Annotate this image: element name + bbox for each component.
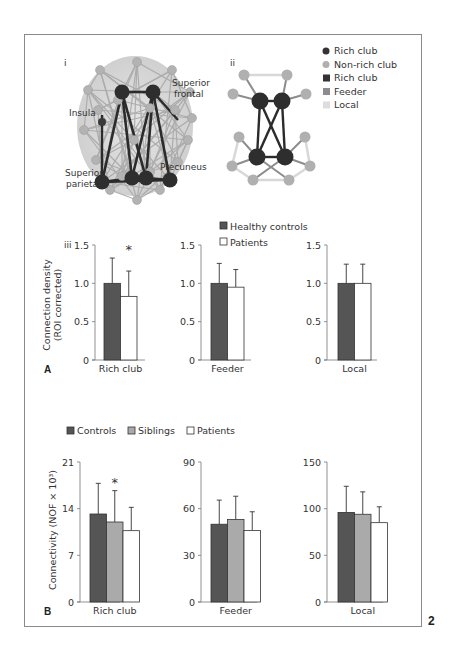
- y-tick-label: 60: [183, 503, 195, 514]
- y-tick-label: 1.5: [306, 240, 321, 251]
- y-tick-label: 0.5: [74, 316, 89, 327]
- region-label-precuneus: Precuneus: [160, 162, 207, 172]
- x-category-label: Rich club: [93, 605, 136, 616]
- figure-number: 2: [428, 614, 435, 628]
- region-label-superior-frontal-2: frontal: [174, 89, 203, 99]
- bar: [355, 514, 372, 602]
- y-tick-label: 1.0: [180, 278, 195, 289]
- rich-club-schematic: ii: [227, 58, 316, 186]
- svg-text:Connectivity (NOF × 10³): Connectivity (NOF × 10³): [47, 470, 58, 590]
- region-label-insula: Insula: [69, 108, 96, 118]
- y-tick-label: 0: [189, 597, 195, 608]
- x-category-label: Rich club: [99, 363, 142, 374]
- chart-rich-club: 071421*Rich club: [62, 457, 140, 617]
- legend-item: Non-rich club: [334, 59, 397, 70]
- y-tick-label: 0: [189, 355, 195, 366]
- panel-label-B: B: [44, 606, 51, 617]
- legend-item: Patients: [197, 425, 235, 436]
- subpanel-iii-label: iii: [64, 240, 72, 250]
- bar: [355, 283, 372, 360]
- bar: [121, 296, 138, 360]
- bar: [211, 283, 228, 360]
- y-tick-label: 21: [62, 457, 74, 468]
- bar: [244, 530, 261, 602]
- region-label-superior-parietal-1: Superior: [65, 168, 103, 178]
- chart-local: 050100150Local: [303, 457, 388, 617]
- x-category-label: Feeder: [211, 363, 244, 374]
- legend-item: Healthy controls: [230, 221, 308, 232]
- y-tick-label: 150: [303, 457, 321, 468]
- chart-local: 00.51.01.5Local: [306, 240, 377, 375]
- bar: [338, 283, 355, 360]
- legend-panel-A: Healthy controlsPatients: [220, 221, 308, 248]
- legend-item: Siblings: [138, 425, 175, 436]
- legend-item: Feeder: [334, 86, 367, 97]
- y-tick-label: 0: [68, 597, 74, 608]
- y-tick-label: 90: [183, 457, 195, 468]
- y-tick-label: 0.5: [306, 316, 321, 327]
- legend-panel-B: ControlsSiblingsPatients: [67, 425, 235, 436]
- subpanel-i-label: i: [64, 58, 67, 68]
- subpanel-ii-label: ii: [230, 58, 235, 68]
- svg-text:(ROI corrected): (ROI corrected): [52, 269, 63, 341]
- chart-feeder: 00.51.01.5Feeder: [180, 240, 251, 375]
- panel-label-A: A: [44, 364, 51, 375]
- region-label-superior-frontal-1: Superior: [172, 78, 210, 88]
- network-legend: Rich clubNon-rich clubRich clubFeederLoc…: [323, 45, 398, 110]
- bar: [228, 520, 245, 602]
- bar-charts-panel-B: 071421*Rich club0306090Feeder050100150Lo…: [62, 457, 388, 617]
- legend-item: Patients: [230, 237, 268, 248]
- y-tick-label: 100: [303, 503, 321, 514]
- y-tick-label: 7: [68, 550, 74, 561]
- bar: [211, 524, 228, 602]
- y-tick-label: 1.0: [306, 278, 321, 289]
- y-tick-label: 1.5: [74, 240, 89, 251]
- bar-charts-panel-A: 00.51.01.5*Rich club00.51.01.5Feeder00.5…: [74, 240, 377, 375]
- significance-marker: *: [126, 242, 133, 257]
- y-tick-label: 0.5: [180, 316, 195, 327]
- legend-item: Rich club: [334, 45, 377, 56]
- y-tick-label: 0: [315, 355, 321, 366]
- bar: [104, 283, 121, 360]
- y-axis-title-B: Connectivity (NOF × 10³): [47, 470, 58, 590]
- y-tick-label: 30: [183, 550, 195, 561]
- x-category-label: Local: [342, 363, 367, 374]
- svg-text:Connection density: Connection density: [41, 259, 52, 351]
- bar: [123, 531, 140, 602]
- region-label-superior-parietal-2: parietal: [66, 179, 101, 189]
- y-tick-label: 1.0: [74, 278, 89, 289]
- y-tick-label: 1.5: [180, 240, 195, 251]
- bar: [338, 512, 355, 602]
- y-tick-label: 0: [315, 597, 321, 608]
- bar: [228, 287, 245, 360]
- y-tick-label: 0: [83, 355, 89, 366]
- brain-network-diagram: i Superior frontal Insula Superior parie…: [64, 56, 210, 205]
- bar: [90, 514, 107, 602]
- y-axis-title-A: Connection density (ROI corrected): [41, 259, 63, 351]
- chart-rich-club: 00.51.01.5*Rich club: [74, 240, 145, 375]
- chart-feeder: 0306090Feeder: [183, 457, 261, 617]
- legend-item: Local: [334, 99, 359, 110]
- legend-item: Rich club: [334, 72, 377, 83]
- legend-item: Controls: [77, 425, 116, 436]
- x-category-label: Local: [350, 605, 375, 616]
- y-tick-label: 50: [309, 550, 321, 561]
- x-category-label: Feeder: [220, 605, 253, 616]
- significance-marker: *: [112, 475, 119, 490]
- bar: [371, 523, 388, 602]
- bar: [107, 522, 124, 602]
- figure-canvas: i Superior frontal Insula Superior parie…: [0, 0, 449, 653]
- y-tick-label: 14: [62, 503, 74, 514]
